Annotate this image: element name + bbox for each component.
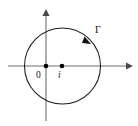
contour-label: Γ: [95, 25, 101, 35]
center-point-label: i: [58, 71, 61, 81]
contour-direction-arrowhead: [82, 37, 91, 45]
complex-plane-diagram: [0, 0, 138, 126]
center-point-dot: [60, 64, 65, 69]
imaginary-axis-arrowhead: [42, 9, 49, 16]
real-axis-arrowhead: [126, 62, 133, 69]
real-axis: [8, 62, 133, 69]
origin-label: 0: [36, 71, 41, 81]
origin-point-dot: [44, 64, 49, 69]
figure-canvas: 0 i Γ: [0, 0, 138, 126]
